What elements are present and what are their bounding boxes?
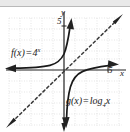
label-g-name: g(x) — [66, 95, 82, 106]
label-f-name: f(x) — [11, 47, 25, 58]
label-f-equals: = — [25, 47, 33, 58]
label-f-exponent: x — [38, 46, 41, 53]
x-axis-label: x — [120, 69, 124, 78]
label-g-fn: log — [90, 95, 103, 106]
x-axis-tick-label-5: 5 — [108, 66, 113, 75]
label-g-equals: = — [82, 95, 90, 106]
label-g-arg: x — [106, 95, 110, 106]
identity-line-arrow-upper-right — [113, 14, 123, 24]
y-axis-tick-label-5: 5 — [57, 17, 62, 26]
exponential-arrow-top — [67, 18, 74, 30]
grid-lines — [9, 18, 122, 126]
function-label-g: g(x)=log4x — [66, 96, 110, 109]
function-label-f: f(x)=4x — [11, 47, 40, 58]
exponential-arrow-left — [5, 65, 16, 73]
identity-line-arrow-lower-left — [6, 118, 16, 128]
math-figure: f(x)=4x g(x)=log4x y x 5 5 — [0, 0, 130, 132]
